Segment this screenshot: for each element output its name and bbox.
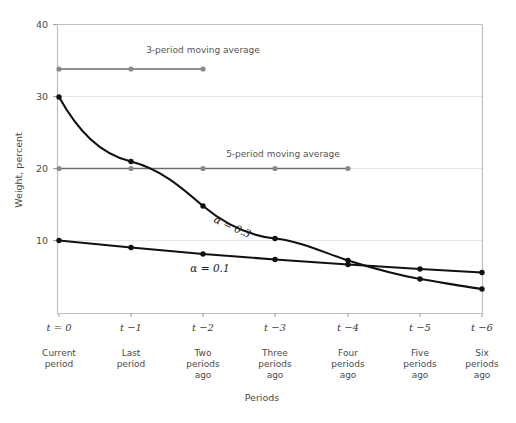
marker-a03-t3 xyxy=(272,236,277,241)
marker-a01-t6 xyxy=(479,270,484,275)
annotation-5-period-moving-average: 5-period moving average xyxy=(226,149,340,159)
x-cat-t6-line2: periods xyxy=(465,359,499,369)
x-cat-t4-line3: ago xyxy=(340,370,357,380)
series-alpha-0-3 xyxy=(56,94,484,291)
y-tick-marks xyxy=(53,25,57,241)
x-tick-label-t1: t −1 xyxy=(120,322,142,333)
marker-ma5-t4 xyxy=(345,166,350,171)
y-axis-title: Weight, percent xyxy=(13,132,24,208)
marker-ma5-t2 xyxy=(200,166,205,171)
gridlines xyxy=(57,25,482,241)
x-tick-label-t6: t −6 xyxy=(471,322,494,333)
y-tick-label-30: 30 xyxy=(36,91,48,102)
marker-ma3-t2 xyxy=(200,66,205,71)
y-tick-label-20: 20 xyxy=(36,163,48,174)
marker-a01-t0 xyxy=(56,238,61,243)
marker-ma5-t3 xyxy=(272,166,277,171)
marker-a01-t1 xyxy=(128,245,133,250)
curve-label-alpha-0-1: α = 0.1 xyxy=(190,262,229,274)
x-cat-t2-line2: periods xyxy=(186,359,220,369)
marker-ma5-t1 xyxy=(128,166,133,171)
x-cat-t3-line1: Three xyxy=(261,348,288,358)
x-tick-label-t2: t −2 xyxy=(192,322,214,333)
marker-ma3-t1 xyxy=(128,66,133,71)
weights-line-chart: 40 30 20 10 Weight, percent 3-period mov… xyxy=(0,0,516,423)
x-cat-t2-line1: Two xyxy=(194,348,212,358)
x-cat-t5-line1: Five xyxy=(411,348,429,358)
series-alpha-0-1 xyxy=(56,238,484,275)
marker-a03-t1 xyxy=(128,159,133,164)
x-cat-t6-line1: Six xyxy=(475,348,489,358)
marker-a03-t2 xyxy=(200,203,205,208)
y-tick-label-40: 40 xyxy=(36,19,48,30)
x-cat-t3-line3: ago xyxy=(267,370,284,380)
marker-a03-t0 xyxy=(56,94,61,99)
x-cat-t4-line2: periods xyxy=(331,359,365,369)
x-cat-t5-line3: ago xyxy=(412,370,429,380)
curve-label-alpha-0-3: α = 0.3 xyxy=(212,213,253,240)
x-tick-label-t5: t −5 xyxy=(409,322,431,333)
annotation-3-period-moving-average: 3-period moving average xyxy=(146,45,260,55)
x-cat-t2-line3: ago xyxy=(195,370,212,380)
marker-a01-t5 xyxy=(417,266,422,271)
x-tick-label-t3: t −3 xyxy=(264,322,286,333)
marker-a03-t5 xyxy=(417,276,422,281)
x-cat-t1-line2: period xyxy=(117,359,146,369)
marker-a03-t6 xyxy=(479,286,484,291)
y-tick-label-10: 10 xyxy=(36,235,48,246)
x-cat-t6-line3: ago xyxy=(474,370,491,380)
x-cat-t0-line2: period xyxy=(45,359,74,369)
x-category-labels: Current period Last period Two periods a… xyxy=(42,348,499,380)
x-cat-t4-line1: Four xyxy=(338,348,358,358)
series-5-period-moving-average xyxy=(56,166,350,171)
x-cat-t3-line2: periods xyxy=(258,359,292,369)
x-tick-label-t0: t = 0 xyxy=(46,322,72,333)
marker-a01-t3 xyxy=(272,257,277,262)
marker-ma5-t0 xyxy=(56,166,61,171)
marker-ma3-t0 xyxy=(56,66,61,71)
series-3-period-moving-average xyxy=(56,66,205,71)
x-cat-t0-line1: Current xyxy=(42,348,76,358)
marker-a01-t2 xyxy=(200,251,205,256)
marker-a01-t4 xyxy=(345,262,350,267)
x-tick-label-t4: t −4 xyxy=(337,322,359,333)
x-axis-title: Periods xyxy=(245,392,280,403)
x-cat-t1-line1: Last xyxy=(122,348,141,358)
x-cat-t5-line2: periods xyxy=(403,359,437,369)
chart-container: 40 30 20 10 Weight, percent 3-period mov… xyxy=(0,0,516,423)
